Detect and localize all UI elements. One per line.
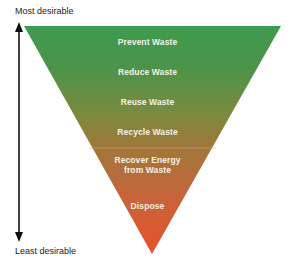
level-reduce-waste: Reduce Waste <box>0 67 295 77</box>
level-recover-energy: Recover Energy from Waste <box>0 155 295 175</box>
level-reuse-waste: Reuse Waste <box>0 97 295 107</box>
level-dispose: Dispose <box>0 201 295 211</box>
recover-energy-line2: from Waste <box>0 165 295 175</box>
recover-energy-line1: Recover Energy <box>0 155 295 165</box>
level-recycle-waste: Recycle Waste <box>0 127 295 137</box>
level-prevent-waste: Prevent Waste <box>0 37 295 47</box>
